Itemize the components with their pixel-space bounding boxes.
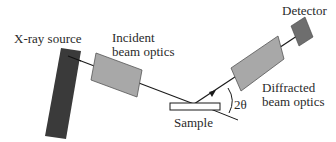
diffracted-optics-label-line2: beam optics <box>262 94 324 109</box>
diagram-canvas: X-ray source Incident beam optics Detect… <box>0 0 336 142</box>
incident-beam-optics-block <box>91 53 142 97</box>
diffracted-optics-label-line1: Diffracted <box>262 80 316 95</box>
incident-optics-label-line2: beam optics <box>112 44 174 59</box>
detector-label: Detector <box>282 3 327 18</box>
xray-source-block <box>45 48 81 139</box>
xray-source-label: X-ray source <box>14 31 82 46</box>
detector-block <box>291 17 313 46</box>
two-theta-label: 2θ <box>234 97 247 112</box>
sample-label: Sample <box>174 115 213 130</box>
diffracted-beam-arrow-icon <box>209 90 216 97</box>
sample-block <box>170 103 220 110</box>
incident-optics-label-line1: Incident <box>112 30 155 45</box>
two-theta-arc <box>228 88 232 113</box>
